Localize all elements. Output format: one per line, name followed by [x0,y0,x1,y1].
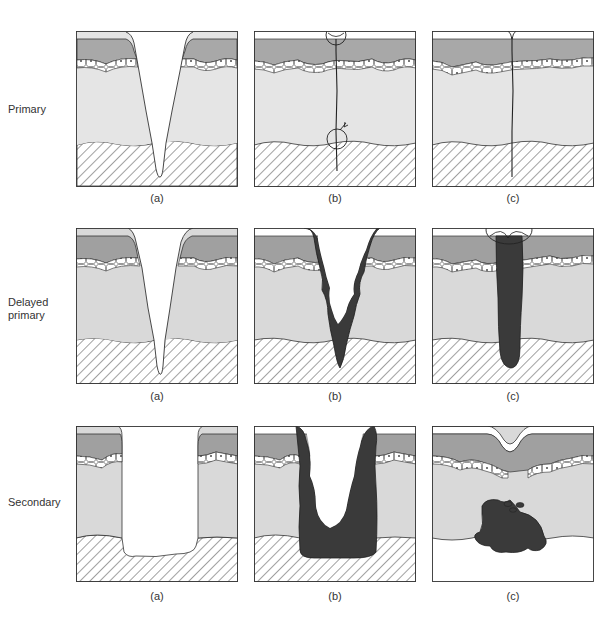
row-label-line: Delayed [8,296,48,309]
row-label-primary: Primary [8,103,46,116]
row-label-line: primary [8,309,48,322]
panel-delayed-c [432,228,594,384]
panel-primary-a [76,31,238,187]
panel-delayed-b [254,228,416,384]
panel-secondary-c [432,426,594,582]
panel-caption: (a) [76,192,238,204]
panel-caption: (c) [432,390,594,402]
panel-caption: (b) [254,192,416,204]
row-label-secondary: Secondary [8,496,61,509]
panel-secondary-b [254,426,416,582]
panel-caption: (b) [254,390,416,402]
panel-caption: (c) [432,192,594,204]
panel-primary-c [432,31,594,187]
panel-caption: (c) [432,590,594,602]
panel-delayed-a [76,228,238,384]
panel-caption: (b) [254,590,416,602]
panel-caption: (a) [76,590,238,602]
row-label-delayed-primary: Delayed primary [8,296,48,322]
panel-caption: (a) [76,390,238,402]
panel-secondary-a [76,426,238,582]
panel-primary-b [254,31,416,187]
